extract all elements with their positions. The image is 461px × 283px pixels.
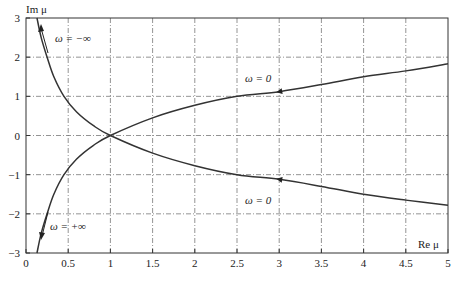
x-axis-label: Re μ: [418, 238, 439, 250]
y-axis-label: Im μ: [26, 3, 47, 15]
x-tick-label: 2.5: [230, 257, 244, 269]
x-tick-label: 4: [361, 257, 367, 269]
y-tick-label: 3: [15, 12, 21, 24]
curve-lower: [37, 64, 448, 253]
x-tick-label: 4.5: [399, 257, 413, 269]
arrow-icon-up: [38, 24, 48, 53]
y-tick-label: 1: [15, 90, 21, 102]
x-tick-label: 1: [108, 257, 114, 269]
y-tick-label: −3: [8, 247, 20, 259]
y-tick-label: −1: [8, 169, 20, 181]
x-tick-label: 5: [445, 257, 451, 269]
x-tick-label: 0: [23, 257, 29, 269]
x-tick-label: 2: [192, 257, 198, 269]
annotation-omega-zero-top: ω = 0: [245, 72, 272, 84]
annotation-omega-zero-bottom: ω = 0: [245, 194, 272, 206]
x-tick-label: 3: [276, 257, 282, 269]
x-tick-label: 0.5: [61, 257, 75, 269]
y-tick-label: 0: [15, 130, 21, 142]
x-tick-label: 3.5: [315, 257, 329, 269]
annotation-omega-minus-inf: ω = −∞: [55, 32, 91, 44]
y-tick-label: 2: [15, 51, 21, 63]
curve-upper: [37, 18, 448, 205]
nyquist-chart: 00.511.522.533.544.553210−1−2−3 Im μ Re …: [0, 0, 461, 283]
y-tick-label: −2: [8, 208, 20, 220]
x-tick-label: 1.5: [146, 257, 160, 269]
grid-lines: [26, 18, 448, 253]
annotation-omega-plus-inf: ω = +∞: [50, 220, 86, 232]
